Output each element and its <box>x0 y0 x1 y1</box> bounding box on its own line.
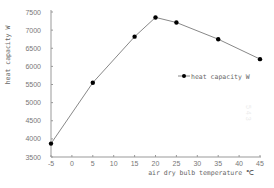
y-axis-title: heat capacity W <box>4 26 12 85</box>
y-tick-label: 3500 <box>25 154 41 161</box>
y-tick-label: 5000 <box>25 99 41 106</box>
x-tick-label: 30 <box>193 160 201 167</box>
y-axis: 350040004500500055006000650070007500 <box>25 9 53 161</box>
x-axis: -5051015202530354045 <box>48 155 264 167</box>
watermark: 5 4 3 <box>245 105 252 121</box>
data-point-marker <box>153 15 157 19</box>
x-tick-label: 45 <box>256 160 264 167</box>
y-tick-label: 7500 <box>25 9 41 16</box>
x-axis-title: air dry bulb temperature ℃ <box>148 169 254 177</box>
y-tick-label: 4500 <box>25 117 41 124</box>
x-tick-label: 15 <box>131 160 139 167</box>
x-tick-label: 0 <box>70 160 74 167</box>
data-point-marker <box>258 57 262 61</box>
x-tick-label: 25 <box>173 160 181 167</box>
legend: heat capacity W <box>178 73 250 81</box>
x-tick-label: 10 <box>110 160 118 167</box>
x-tick-label: 35 <box>214 160 222 167</box>
series-heat-capacity <box>49 15 262 146</box>
y-tick-label: 6500 <box>25 45 41 52</box>
line-chart: 350040004500500055006000650070007500 -50… <box>0 0 274 188</box>
svg-text:5 4 3: 5 4 3 <box>245 105 252 121</box>
y-tick-label: 6000 <box>25 63 41 70</box>
x-tick-label: 5 <box>91 160 95 167</box>
x-tick-label: 20 <box>152 160 160 167</box>
x-tick-label: 40 <box>235 160 243 167</box>
data-point-marker <box>216 37 220 41</box>
y-tick-label: 5500 <box>25 81 41 88</box>
x-tick-label: -5 <box>48 160 54 167</box>
y-tick-label: 7000 <box>25 27 41 34</box>
data-point-marker <box>91 80 95 84</box>
legend-label: heat capacity W <box>191 73 250 81</box>
data-point-marker <box>174 20 178 24</box>
legend-marker-icon <box>182 74 186 78</box>
data-point-marker <box>49 141 53 145</box>
series-line <box>51 17 260 143</box>
data-point-marker <box>132 34 136 38</box>
y-tick-label: 4000 <box>25 135 41 142</box>
